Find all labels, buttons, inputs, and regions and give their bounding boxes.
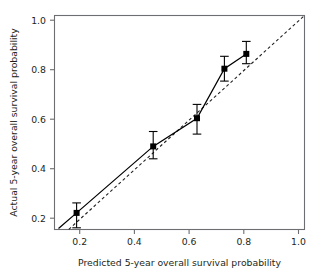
y-axis-title: Actual 5-year overall survival probabili… [8, 28, 19, 217]
data-point-4 [221, 66, 227, 72]
x-tick-label-0.2: 0.2 [72, 236, 87, 247]
x-tick-label-0.6: 0.6 [182, 236, 197, 247]
x-tick-label-0.4: 0.4 [127, 236, 142, 247]
x-tick-label-0.8: 0.8 [236, 236, 251, 247]
data-point-2 [150, 143, 156, 149]
y-tick-label-1.0: 1.0 [31, 15, 46, 26]
y-tick-label-0.2: 0.2 [31, 213, 46, 224]
data-point-1 [74, 210, 80, 216]
y-tick-label-0.6: 0.6 [31, 114, 46, 125]
x-axis-title: Predicted 5-year overall survival probab… [78, 257, 281, 268]
y-tick-label-0.4: 0.4 [31, 163, 46, 174]
figure-background [0, 0, 325, 278]
plot-canvas: 1.0 0.8 0.6 0.4 0.2 0.2 0.4 0.6 0.8 1.0 [0, 0, 325, 278]
x-tick-label-1.0: 1.0 [291, 236, 306, 247]
y-tick-label-0.8: 0.8 [31, 64, 46, 75]
data-point-5 [243, 51, 249, 57]
calibration-plot-figure: 1.0 0.8 0.6 0.4 0.2 0.2 0.4 0.6 0.8 1.0 [0, 0, 325, 278]
data-point-3 [194, 115, 200, 121]
